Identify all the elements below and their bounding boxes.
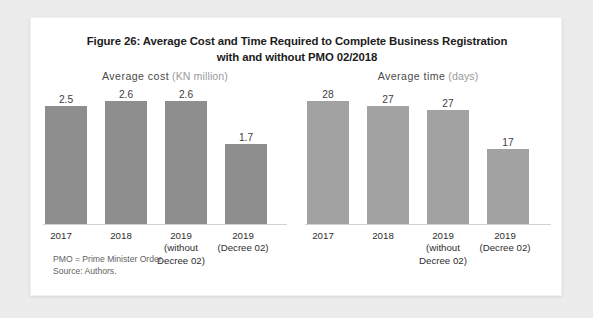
bar [105, 101, 147, 224]
bar-slot: 2.5 [37, 87, 95, 224]
bar-slot: 27 [359, 87, 417, 224]
chart-average-time-subtitle-unit: (days) [448, 70, 478, 82]
chart-average-cost-subtitle-main: Average cost [102, 70, 169, 82]
bar-value-label: 27 [359, 94, 417, 105]
x-axis-label: 2019 (Decree 02) [471, 230, 539, 255]
bar-value-label: 28 [299, 89, 357, 100]
bar [367, 106, 409, 224]
chart-average-time-subtitle: Average time (days) [299, 70, 557, 82]
bar [427, 110, 469, 224]
chart-average-time: Average time (days) 28 27 27 [299, 70, 557, 260]
x-axis-label: 2019 (without Decree 02) [409, 230, 477, 267]
bar [165, 101, 207, 224]
chart-average-cost: Average cost (KN million) 2.5 2.6 2.6 [37, 70, 293, 260]
x-axis-label-line: 2019 [471, 230, 539, 242]
chart-average-cost-subtitle: Average cost (KN million) [37, 70, 293, 82]
bar-slot: 1.7 [217, 87, 275, 224]
chart-average-time-subtitle-main: Average time [378, 70, 446, 82]
bar-value-label: 1.7 [217, 132, 275, 143]
figure-footnote: PMO = Prime Minister Order. Source: Auth… [53, 254, 164, 277]
x-axis-label-line: 2018 [349, 230, 417, 242]
x-axis-label-line: 2018 [87, 230, 155, 242]
x-axis-label: 2018 [87, 230, 155, 242]
chart-average-time-plot: 28 27 27 17 [299, 87, 557, 225]
chart-average-cost-plot: 2.5 2.6 2.6 1.7 [37, 87, 293, 225]
x-axis-label-line: (without [147, 242, 215, 254]
scan-background: Figure 26: Average Cost and Time Require… [0, 0, 593, 318]
charts-container: Average cost (KN million) 2.5 2.6 2.6 [31, 70, 562, 260]
x-axis-label-line: (Decree 02) [471, 242, 539, 254]
x-axis-label: 2018 [349, 230, 417, 242]
footnote-source: Source: Authors. [53, 266, 164, 278]
x-axis-label-line: 2017 [30, 230, 95, 242]
chart-average-cost-subtitle-unit: (KN million) [172, 70, 228, 82]
bar [307, 101, 349, 224]
figure-title-line-1: Figure 26: Average Cost and Time Require… [87, 35, 508, 47]
x-axis-label-line: 2019 [147, 230, 215, 242]
bar-slot: 27 [419, 87, 477, 224]
bar-value-label: 2.5 [37, 94, 95, 105]
x-axis-label-line: (Decree 02) [209, 242, 277, 254]
figure-title-line-2: with and without PMO 02/2018 [53, 50, 541, 66]
figure-title: Figure 26: Average Cost and Time Require… [53, 34, 541, 65]
x-axis-label-line: Decree 02) [409, 255, 477, 267]
x-axis-label-line: (without [409, 242, 477, 254]
figure-page: Figure 26: Average Cost and Time Require… [30, 17, 562, 296]
bar-value-label: 2.6 [97, 89, 155, 100]
bar [45, 106, 87, 224]
x-axis-line [43, 224, 287, 225]
bar-slot: 28 [299, 87, 357, 224]
bar-value-label: 2.6 [157, 89, 215, 100]
bar-slot: 2.6 [157, 87, 215, 224]
bar-slot: 17 [479, 87, 537, 224]
bar [225, 144, 267, 224]
x-axis-label-line: 2019 [409, 230, 477, 242]
x-axis-label-line: 2019 [209, 230, 277, 242]
chart-average-time-x-labels: 2017 2018 2019 (without Decree 02) 2019 … [299, 230, 557, 276]
bar-value-label: 17 [479, 137, 537, 148]
x-axis-line [305, 224, 551, 225]
x-axis-label: 2019 (Decree 02) [209, 230, 277, 255]
bar [487, 149, 529, 224]
footnote-abbreviation: PMO = Prime Minister Order. [53, 254, 164, 266]
x-axis-label: 2017 [289, 230, 357, 242]
bar-value-label: 27 [419, 98, 477, 109]
x-axis-label-line: 2017 [289, 230, 357, 242]
bar-slot: 2.6 [97, 87, 155, 224]
x-axis-label: 2017 [30, 230, 95, 242]
